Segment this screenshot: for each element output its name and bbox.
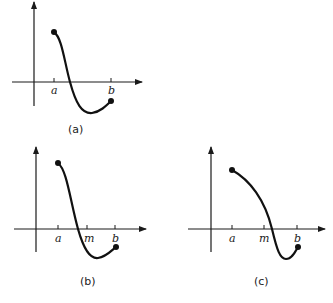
endpoint-b-dot [113, 244, 119, 250]
panel-c: a m b (c) [188, 147, 325, 288]
tick-label-m: m [259, 232, 269, 245]
caption-c: (c) [254, 275, 269, 288]
caption-a: (a) [68, 123, 83, 136]
tick-label-a: a [55, 232, 62, 245]
endpoint-a-dot [55, 160, 61, 166]
tick-label-a: a [51, 84, 58, 97]
endpoint-a-dot [229, 167, 235, 173]
function-curve [54, 32, 111, 113]
endpoint-a-dot [51, 29, 57, 35]
tick-label-b: b [112, 232, 119, 245]
caption-b: (b) [80, 275, 96, 288]
bisection-diagram: a b (a) a m b (b) a m b (c) [0, 0, 333, 303]
panel-b: a m b (b) [14, 147, 146, 288]
tick-label-a: a [229, 232, 236, 245]
panel-a: a b (a) [12, 2, 142, 136]
endpoint-b-dot [295, 244, 301, 250]
tick-label-b: b [294, 232, 301, 245]
endpoint-b-dot [108, 98, 114, 104]
function-curve [232, 170, 298, 259]
tick-label-b: b [108, 84, 115, 97]
tick-label-m: m [84, 232, 94, 245]
